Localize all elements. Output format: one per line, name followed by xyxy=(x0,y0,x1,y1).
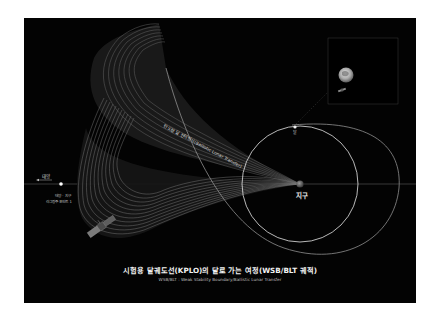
diagram-subtitle: WSB/BLT : Weak Stability Boundary/Ballis… xyxy=(24,277,416,282)
lagrange-point-icon xyxy=(59,182,63,186)
moon-inset xyxy=(328,38,398,104)
moon-label: 달 xyxy=(293,129,297,135)
earth-icon xyxy=(296,180,303,187)
l1-label-line2: 라그랑주 포인트 1 xyxy=(46,199,72,204)
inset-connector xyxy=(294,90,330,126)
trajectory-diagram xyxy=(24,18,416,303)
sun-label: 태양 xyxy=(42,173,50,179)
diagram-panel: 태양 태양 · 지구 라그랑주 포인트 1 지구 달 탄도형 달 전이방식(Ba… xyxy=(24,18,416,303)
earth-label: 지구 xyxy=(296,190,308,200)
l1-label-line1: 태양 · 지구 xyxy=(55,193,71,198)
diagram-title: 시험용 달궤도선(KPLO)의 달로 가는 여정(WSB/BLT 궤적) xyxy=(24,265,416,275)
arrow-left-icon xyxy=(36,179,52,181)
